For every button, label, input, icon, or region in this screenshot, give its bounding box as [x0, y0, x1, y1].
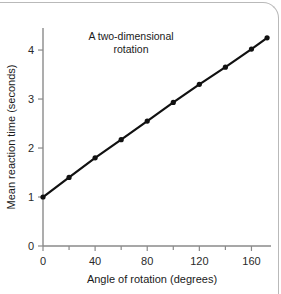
x-tick-label: 0	[40, 255, 46, 267]
y-axis-tick-labels: 01234	[28, 44, 34, 252]
data-series-line	[43, 38, 267, 197]
x-axis-ticks	[43, 246, 251, 251]
y-tick-label: 1	[28, 191, 34, 203]
data-point-marker	[119, 137, 124, 142]
data-point-marker	[145, 118, 150, 123]
data-point-marker	[249, 46, 254, 51]
x-tick-label: 120	[190, 255, 208, 267]
x-tick-label: 40	[89, 255, 101, 267]
x-tick-label: 80	[141, 255, 153, 267]
data-point-marker	[264, 35, 269, 40]
y-axis-ticks	[38, 50, 43, 246]
data-point-marker	[223, 65, 228, 70]
x-axis-title: Angle of rotation (degrees)	[87, 273, 217, 285]
data-point-marker	[66, 175, 71, 180]
data-point-marker	[40, 194, 45, 199]
plot-title-line-2: rotation	[113, 43, 148, 55]
x-tick-label: 160	[242, 255, 260, 267]
plot-title-line-1: A two-dimensional	[88, 30, 173, 42]
y-tick-label: 0	[28, 240, 34, 252]
y-tick-label: 2	[28, 142, 34, 154]
y-tick-label: 4	[28, 44, 34, 56]
y-axis-title: Mean reaction time (seconds)	[5, 65, 17, 210]
data-point-marker	[171, 100, 176, 105]
y-tick-label: 3	[28, 93, 34, 105]
data-point-marker	[197, 82, 202, 87]
x-axis-tick-labels: 04080120160	[40, 255, 261, 267]
data-point-marker	[93, 155, 98, 160]
